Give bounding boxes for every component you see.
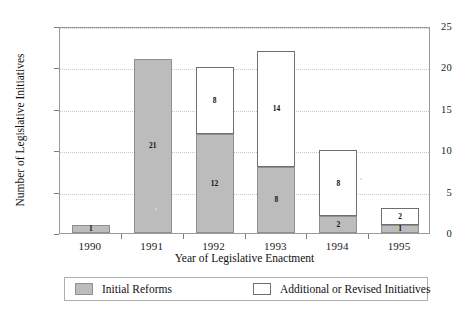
bar-value-initial-1992: 12 <box>211 180 219 188</box>
gridline-20 <box>60 69 429 70</box>
bar-segment-initial-1991[interactable]: 21 <box>134 59 172 233</box>
bar-group-1992[interactable]: 128 <box>196 67 234 233</box>
x-tick-label-1990: 1990 <box>55 240 125 252</box>
bar-group-1995[interactable]: 12 <box>381 208 419 233</box>
legend-item-additional-initiatives: Additional or Revised Initiatives <box>253 278 430 300</box>
bar-segment-additional-1992[interactable]: 8 <box>196 67 234 133</box>
x-axis-title: Year of Legislative Enactment <box>59 252 430 264</box>
bar-value-initial-1990: 1 <box>89 225 93 233</box>
x-tick-mark-4 <box>306 234 307 239</box>
x-tick-mark-3 <box>245 234 246 239</box>
x-tick-label-1994: 1994 <box>302 240 372 252</box>
x-tick-label-1991: 1991 <box>117 240 187 252</box>
bar-value-additional-1994: 8 <box>336 180 340 188</box>
bar-group-1994[interactable]: 28 <box>319 150 357 233</box>
x-tick-label-1993: 1993 <box>240 240 310 252</box>
bar-value-initial-1994: 2 <box>336 221 340 229</box>
legend-swatch-additional-initiatives <box>253 283 271 295</box>
y-axis-title: Number of Legislative Initiatives <box>14 30 26 230</box>
chart-figure: Number of Legislative Initiatives 252015… <box>0 0 452 318</box>
x-tick-mark-1 <box>121 234 122 239</box>
gridline-15 <box>60 111 429 112</box>
legend-swatch-initial-reforms <box>75 283 93 295</box>
x-tick-mark-5 <box>368 234 369 239</box>
legend-label-initial-reforms: Initial Reforms <box>102 283 172 295</box>
x-tick-mark-2 <box>183 234 184 239</box>
bar-segment-additional-1993[interactable]: 14 <box>257 51 295 167</box>
scan-speck <box>360 178 362 180</box>
y-tick-mark-0 <box>54 234 59 235</box>
chart-legend: Initial Reforms Additional or Revised In… <box>64 277 428 301</box>
scan-speck <box>155 208 157 210</box>
gridline-25 <box>60 28 429 29</box>
bar-segment-initial-1995[interactable]: 1 <box>381 225 419 233</box>
bar-segment-initial-1990[interactable]: 1 <box>72 225 110 233</box>
bar-segment-initial-1994[interactable]: 2 <box>319 216 357 233</box>
bar-group-1991[interactable]: 21 <box>134 59 172 233</box>
plot-area: 1211288142812 <box>59 27 430 234</box>
bar-segment-initial-1992[interactable]: 12 <box>196 134 234 233</box>
bar-value-additional-1995: 2 <box>398 213 402 221</box>
bar-value-additional-1993: 14 <box>273 105 281 113</box>
bar-segment-initial-1993[interactable]: 8 <box>257 167 295 233</box>
legend-item-initial-reforms: Initial Reforms <box>75 278 172 300</box>
bar-value-initial-1995: 1 <box>398 225 402 233</box>
bar-segment-additional-1994[interactable]: 8 <box>319 150 357 216</box>
bar-value-initial-1993: 8 <box>275 196 279 204</box>
x-tick-label-1995: 1995 <box>364 240 434 252</box>
bar-value-initial-1991: 21 <box>149 142 157 150</box>
bar-segment-additional-1995[interactable]: 2 <box>381 208 419 225</box>
legend-label-additional-initiatives: Additional or Revised Initiatives <box>280 283 430 295</box>
x-tick-label-1992: 1992 <box>179 240 249 252</box>
gridline-10 <box>60 152 429 153</box>
bar-group-1990[interactable]: 1 <box>72 225 110 233</box>
bar-group-1993[interactable]: 814 <box>257 51 295 233</box>
bar-value-additional-1992: 8 <box>213 97 217 105</box>
gridline-5 <box>60 194 429 195</box>
